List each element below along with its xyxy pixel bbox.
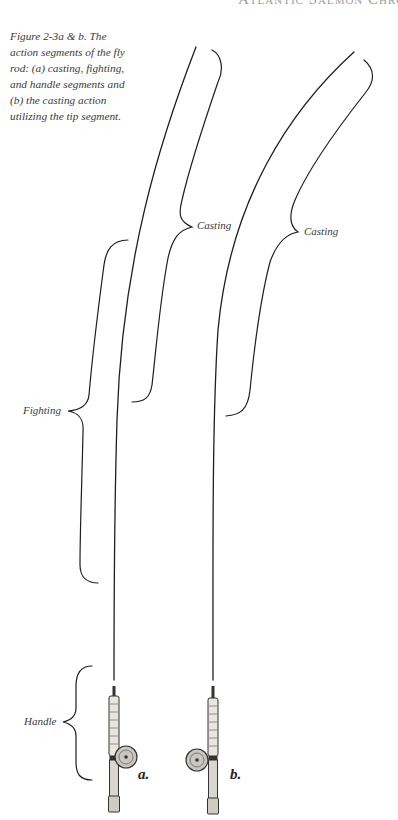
reel-b-icon xyxy=(186,749,208,771)
fighting-brace xyxy=(68,240,128,583)
rod-b-handle xyxy=(186,686,219,814)
rod-a-handle xyxy=(109,686,138,812)
rod-b-casting-brace xyxy=(226,60,373,416)
reel-a-icon xyxy=(115,746,137,768)
rod-b-blank xyxy=(213,52,354,680)
label-handle: Handle xyxy=(24,715,56,727)
label-rod-b-casting: Casting xyxy=(304,225,338,237)
handle-brace xyxy=(63,666,92,780)
label-fighting: Fighting xyxy=(23,404,61,416)
label-rod-a-casting: Casting xyxy=(197,219,231,231)
panel-letter-a: a. xyxy=(138,766,149,783)
rod-a-blank xyxy=(114,47,196,680)
panel-letter-b: b. xyxy=(230,766,241,783)
